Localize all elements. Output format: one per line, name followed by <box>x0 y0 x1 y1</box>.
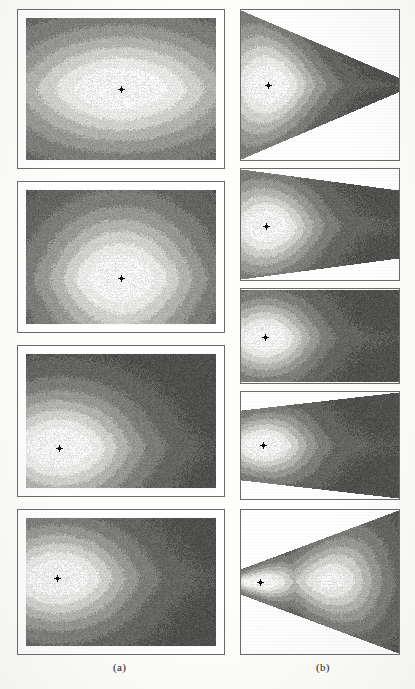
plot-area-b5 <box>241 510 399 654</box>
plot-panel-a1 <box>17 9 225 169</box>
field-raster-a2 <box>26 189 216 325</box>
contour-canvas-b3 <box>241 289 399 383</box>
field-raster-a4 <box>26 517 216 647</box>
plot-panel-a3 <box>17 345 225 497</box>
figure-page: (a) (b) <box>0 0 415 689</box>
plot-panel-b2 <box>240 168 400 281</box>
plot-panel-b3 <box>240 288 400 384</box>
caption-b: (b) <box>316 661 330 673</box>
field-raster-b3 <box>241 289 399 383</box>
contour-canvas-a1 <box>26 17 216 161</box>
field-raster-b1 <box>241 10 399 160</box>
contour-canvas-a4 <box>26 517 216 647</box>
plot-area-a3 <box>26 353 216 489</box>
field-raster-a3 <box>26 353 216 489</box>
contour-canvas-b2 <box>241 169 399 280</box>
plot-area-a1 <box>26 17 216 161</box>
field-raster-b2 <box>241 169 399 280</box>
plot-panel-b4 <box>240 391 400 500</box>
contour-canvas-b1 <box>241 10 399 160</box>
contour-canvas-a3 <box>26 353 216 489</box>
caption-a: (a) <box>113 661 126 673</box>
plot-area-b2 <box>241 169 399 280</box>
plot-panel-a4 <box>17 509 225 655</box>
field-raster-b5 <box>241 510 399 654</box>
contour-canvas-b4 <box>241 392 399 499</box>
plot-panel-a2 <box>17 181 225 333</box>
plot-panel-b1 <box>240 9 400 161</box>
plot-area-b4 <box>241 392 399 499</box>
contour-canvas-a2 <box>26 189 216 325</box>
plot-area-b3 <box>241 289 399 383</box>
plot-area-b1 <box>241 10 399 160</box>
field-raster-b4 <box>241 392 399 499</box>
plot-panel-b5 <box>240 509 400 655</box>
plot-area-a4 <box>26 517 216 647</box>
field-raster-a1 <box>26 17 216 161</box>
contour-canvas-b5 <box>241 510 399 654</box>
plot-area-a2 <box>26 189 216 325</box>
